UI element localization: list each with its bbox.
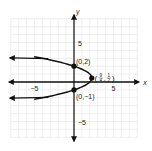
labels-layer: xy−555−5(0,2)(0,−1)(94,12) [31, 8, 148, 126]
y-tick-label: −5 [78, 119, 86, 126]
axes [9, 15, 139, 142]
point-label: (0,−1) [76, 93, 94, 101]
x-tick-label: 5 [112, 85, 116, 92]
y-axis-label: y [75, 8, 80, 16]
vertex-comma: , [104, 75, 106, 82]
point-label: (0,2) [76, 58, 90, 66]
curve-arrow-bottom [10, 97, 49, 98]
curve-arrow-top [10, 58, 49, 59]
parabola-chart: xy−555−5(0,2)(0,−1)(94,12) [0, 0, 152, 151]
x-axis-label: x [142, 79, 147, 86]
vertex-paren-open: ( [94, 74, 97, 83]
vertex-paren-close: ) [112, 74, 115, 83]
x-tick-label: −5 [31, 85, 39, 92]
points-layer [71, 64, 94, 93]
point-marker [71, 87, 76, 92]
y-tick-label: 5 [78, 40, 82, 47]
